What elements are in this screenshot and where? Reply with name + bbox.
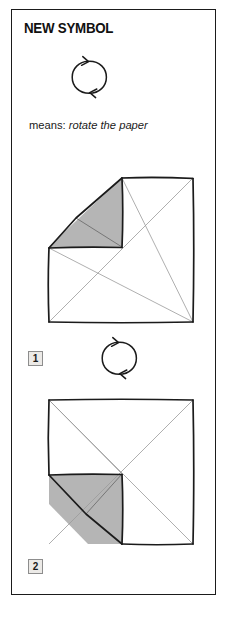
legend-label: means:	[29, 119, 66, 131]
outline-left-1	[48, 248, 49, 322]
outline-left-2	[48, 400, 49, 475]
page-title: NEW SYMBOL	[24, 19, 113, 37]
outline-top-2	[49, 399, 193, 400]
legend-value: rotate the paper	[69, 119, 148, 131]
outline-fold-side-1	[122, 178, 123, 248]
folded-square-step-2	[36, 394, 200, 556]
outline-right-2	[193, 400, 194, 544]
instruction-sheet-page: NEW SYMBOL means: rotate the paper	[0, 0, 229, 617]
step-number-badge: 1	[28, 351, 43, 366]
outline-fold-base-2	[49, 474, 122, 475]
outline-right-1	[193, 179, 194, 323]
outline-fold-base-1	[49, 247, 122, 248]
outline-fold-side-2	[122, 475, 123, 545]
folded-square-step-1	[36, 172, 200, 334]
rotate-paper-symbol	[93, 334, 145, 386]
crease-diagonal-a	[49, 248, 193, 322]
legend-caption: means: rotate the paper	[29, 119, 148, 131]
step-number-badge: 2	[28, 559, 43, 574]
outline-bottom-1	[49, 322, 193, 323]
outline-bottom-right-2	[122, 544, 193, 545]
rotate-paper-symbol	[63, 53, 115, 105]
